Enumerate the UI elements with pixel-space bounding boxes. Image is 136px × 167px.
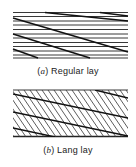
regular-lay-diagram	[0, 0, 136, 64]
caption-text-a: Regular lay	[51, 66, 99, 76]
caption-text-b: Lang lay	[57, 145, 93, 155]
caption-regular-lay: (a) Regular lay	[0, 66, 136, 76]
lang-lay-diagram	[0, 85, 136, 141]
caption-lang-lay: (b) Lang lay	[0, 145, 136, 155]
caption-letter-a: a	[40, 66, 45, 76]
caption-letter-b: b	[46, 145, 51, 155]
